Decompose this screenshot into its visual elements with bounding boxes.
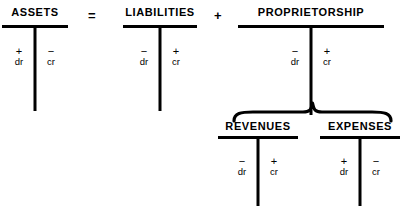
debit-sign-assets: + bbox=[6, 46, 32, 56]
account-credit-side-assets: − cr bbox=[38, 46, 64, 68]
account-title-liabilities: LIABILITIES bbox=[125, 6, 195, 19]
account-stem-proprietorship bbox=[310, 25, 313, 115]
account-debit-side-proprietorship: − dr bbox=[282, 46, 308, 68]
credit-label-liabilities: cr bbox=[163, 56, 189, 68]
debit-sign-expenses: + bbox=[331, 156, 357, 166]
credit-sign-revenues: + bbox=[261, 156, 287, 166]
account-stem-expenses bbox=[359, 136, 362, 206]
credit-label-revenues: cr bbox=[261, 166, 287, 178]
account-stem-liabilities bbox=[159, 25, 162, 111]
account-stem-assets bbox=[34, 25, 37, 111]
debit-sign-proprietorship: − bbox=[282, 46, 308, 56]
credit-sign-assets: − bbox=[38, 46, 64, 56]
account-title-expenses: EXPENSES bbox=[328, 120, 392, 133]
credit-sign-proprietorship: + bbox=[314, 46, 340, 56]
debit-label-revenues: dr bbox=[229, 166, 255, 178]
debit-sign-revenues: − bbox=[229, 156, 255, 166]
account-debit-side-expenses: + dr bbox=[331, 156, 357, 178]
account-debit-side-assets: + dr bbox=[6, 46, 32, 68]
t-account-assets: ASSETS + dr − cr bbox=[0, 6, 70, 111]
account-title-revenues: REVENUES bbox=[225, 120, 290, 133]
account-credit-side-revenues: + cr bbox=[261, 156, 287, 178]
account-credit-side-liabilities: + cr bbox=[163, 46, 189, 68]
t-account-liabilities: LIABILITIES − dr + cr bbox=[121, 6, 199, 111]
account-debit-side-liabilities: − dr bbox=[131, 46, 157, 68]
account-stem-revenues bbox=[257, 136, 260, 206]
credit-sign-liabilities: + bbox=[163, 46, 189, 56]
credit-label-proprietorship: cr bbox=[314, 56, 340, 68]
operator-plus: + bbox=[214, 9, 222, 22]
account-title-proprietorship: PROPRIETORSHIP bbox=[258, 6, 365, 19]
accounting-equation-diagram: ASSETS + dr − cr = LIABILITIES − dr + cr… bbox=[0, 0, 405, 206]
debit-label-expenses: dr bbox=[331, 166, 357, 178]
credit-sign-expenses: − bbox=[363, 156, 389, 166]
debit-sign-liabilities: − bbox=[131, 46, 157, 56]
credit-label-assets: cr bbox=[38, 56, 64, 68]
account-credit-side-expenses: − cr bbox=[363, 156, 389, 178]
account-title-assets: ASSETS bbox=[11, 6, 59, 19]
debit-label-proprietorship: dr bbox=[282, 56, 308, 68]
account-credit-side-proprietorship: + cr bbox=[314, 46, 340, 68]
t-account-proprietorship: PROPRIETORSHIP − dr + cr bbox=[236, 6, 386, 109]
t-account-expenses: EXPENSES + dr − cr bbox=[318, 120, 402, 206]
account-debit-side-revenues: − dr bbox=[229, 156, 255, 178]
operator-equals: = bbox=[88, 9, 96, 22]
debit-label-liabilities: dr bbox=[131, 56, 157, 68]
credit-label-expenses: cr bbox=[363, 166, 389, 178]
debit-label-assets: dr bbox=[6, 56, 32, 68]
t-account-revenues: REVENUES − dr + cr bbox=[216, 120, 300, 206]
